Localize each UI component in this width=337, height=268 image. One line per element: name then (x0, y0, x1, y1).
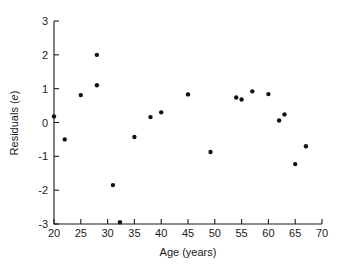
y-tick-label: 2 (42, 49, 48, 61)
data-point (159, 110, 163, 114)
scatter-plot-figure: 2025303540455055606570 -3-2-10123 Age (y… (0, 0, 337, 268)
residuals-vs-age-scatter-chart: 2025303540455055606570 -3-2-10123 Age (y… (0, 0, 337, 268)
data-point (95, 83, 99, 87)
data-point (250, 89, 254, 93)
data-point (266, 92, 270, 96)
x-tick-label: 20 (48, 227, 60, 239)
y-tick-label: -3 (38, 218, 48, 230)
data-point (95, 53, 99, 57)
x-tick-label: 45 (182, 227, 194, 239)
x-tick-label: 40 (155, 227, 167, 239)
x-tick-label: 50 (209, 227, 221, 239)
data-point (132, 135, 136, 139)
y-tick-label: 0 (42, 117, 48, 129)
x-tick-label: 25 (75, 227, 87, 239)
x-tick-label: 65 (289, 227, 301, 239)
y-tick-label: -1 (38, 150, 48, 162)
x-tick-label: 30 (101, 227, 113, 239)
data-point (118, 220, 122, 224)
y-axis-title: Residuals (e) (8, 91, 20, 156)
x-tick-label: 35 (128, 227, 140, 239)
data-point (208, 150, 212, 154)
data-point (63, 137, 67, 141)
data-point (52, 114, 56, 118)
x-tick-label: 55 (235, 227, 247, 239)
data-point (111, 183, 115, 187)
data-point (282, 112, 286, 116)
data-point (79, 93, 83, 97)
y-tick-label: 1 (42, 83, 48, 95)
y-tick-label: -2 (38, 184, 48, 196)
data-point (239, 97, 243, 101)
data-point (304, 144, 308, 148)
data-point (293, 162, 297, 166)
data-point (148, 115, 152, 119)
y-tick-label: 3 (42, 15, 48, 27)
x-tick-label: 60 (262, 227, 274, 239)
data-point (277, 118, 281, 122)
x-axis-title: Age (years) (160, 246, 217, 258)
data-point (234, 95, 238, 99)
x-tick-label: 70 (316, 227, 328, 239)
data-point (186, 92, 190, 96)
